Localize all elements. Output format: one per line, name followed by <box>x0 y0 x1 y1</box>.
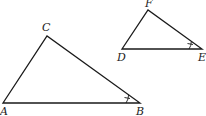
angle-b-arc <box>126 95 129 103</box>
triangle-def-outline <box>122 10 202 49</box>
vertex-label-f: F <box>144 0 153 10</box>
triangle-abc <box>3 36 140 103</box>
vertex-label-b: B <box>135 105 144 116</box>
vertex-label-e: E <box>197 51 206 64</box>
angle-b-tick <box>125 98 131 99</box>
angle-e-tick <box>188 44 194 45</box>
vertex-label-a: A <box>0 105 8 116</box>
angle-e-arc <box>189 42 191 49</box>
vertex-label-d: D <box>116 51 126 64</box>
vertex-label-c: C <box>42 21 51 34</box>
triangle-abc-outline <box>3 36 140 103</box>
triangle-def <box>122 10 202 49</box>
diagram-canvas: C A B F D E <box>0 0 206 116</box>
